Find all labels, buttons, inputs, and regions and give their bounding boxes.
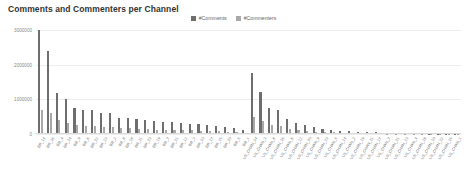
- y-tick-label: 0: [29, 131, 32, 136]
- bar-group[interactable]: [116, 30, 125, 134]
- bar-group[interactable]: [266, 30, 275, 134]
- bar-group[interactable]: [204, 30, 213, 134]
- bar-group[interactable]: [222, 30, 231, 134]
- chart-title: Comments and Commenters per Channel: [8, 4, 179, 14]
- bar[interactable]: [253, 117, 255, 134]
- bar-group[interactable]: [408, 30, 417, 134]
- bar-group[interactable]: [71, 30, 80, 134]
- bar-group[interactable]: [417, 30, 426, 134]
- bar-group[interactable]: [443, 30, 452, 134]
- chart-container: Comments and Commenters per Channel #Com…: [0, 0, 467, 175]
- bar-group[interactable]: [45, 30, 54, 134]
- y-axis: 0100000020000003000000: [0, 30, 34, 134]
- legend-label: #Comments: [199, 15, 227, 21]
- bar-group[interactable]: [63, 30, 72, 134]
- bar-group[interactable]: [133, 30, 142, 134]
- bar-group[interactable]: [399, 30, 408, 134]
- bar-group[interactable]: [151, 30, 160, 134]
- bar-group[interactable]: [213, 30, 222, 134]
- chart-legend: #Comments#Commenters: [0, 15, 467, 21]
- bar-group[interactable]: [426, 30, 435, 134]
- bar-group[interactable]: [240, 30, 249, 134]
- x-tick-label: BR_2: [108, 136, 117, 147]
- y-tick-label: 2000000: [14, 62, 32, 67]
- bar-group[interactable]: [372, 30, 381, 134]
- bars-layer: [36, 30, 461, 134]
- bar-group[interactable]: [381, 30, 390, 134]
- x-tick-label: BR_17: [204, 136, 214, 149]
- x-tick-label: BR_9: [72, 136, 81, 147]
- bar-group[interactable]: [328, 30, 337, 134]
- legend-label: #Commenters: [244, 15, 277, 21]
- legend-swatch-icon: [236, 16, 241, 21]
- bar-group[interactable]: [169, 30, 178, 134]
- x-tick-label: BR_14: [36, 136, 46, 149]
- bar-group[interactable]: [142, 30, 151, 134]
- bar[interactable]: [58, 120, 60, 134]
- bar-group[interactable]: [36, 30, 45, 134]
- bar-group[interactable]: [54, 30, 63, 134]
- bar-group[interactable]: [249, 30, 258, 134]
- bar-group[interactable]: [434, 30, 443, 134]
- x-axis: BR_14BR_16BR_4BR_24BR_9BR_6BR_22BR_13BR_…: [36, 135, 461, 175]
- bar-group[interactable]: [346, 30, 355, 134]
- plot-area: [36, 30, 461, 134]
- x-tick-label: BR_23: [142, 136, 152, 149]
- bar-group[interactable]: [284, 30, 293, 134]
- bar-group[interactable]: [355, 30, 364, 134]
- bar-group[interactable]: [390, 30, 399, 134]
- x-tick-label: BR_5: [232, 136, 241, 147]
- bar[interactable]: [50, 113, 52, 134]
- y-tick-label: 1000000: [14, 97, 32, 102]
- bar-group[interactable]: [80, 30, 89, 134]
- bar-group[interactable]: [275, 30, 284, 134]
- bar-group[interactable]: [187, 30, 196, 134]
- bar-group[interactable]: [98, 30, 107, 134]
- legend-swatch-icon: [191, 16, 196, 21]
- legend-entry-2[interactable]: #Commenters: [236, 15, 277, 21]
- bar-group[interactable]: [319, 30, 328, 134]
- bar-group[interactable]: [452, 30, 461, 134]
- bar-group[interactable]: [178, 30, 187, 134]
- bar-group[interactable]: [257, 30, 266, 134]
- bar-group[interactable]: [125, 30, 134, 134]
- bar-group[interactable]: [107, 30, 116, 134]
- bar-group[interactable]: [231, 30, 240, 134]
- plot-wrapper: 0100000020000003000000 BR_14BR_16BR_4BR_…: [0, 30, 467, 175]
- y-tick-label: 3000000: [14, 28, 32, 33]
- bar-group[interactable]: [310, 30, 319, 134]
- legend-entry-1[interactable]: #Comments: [191, 15, 227, 21]
- bar-group[interactable]: [364, 30, 373, 134]
- bar-group[interactable]: [89, 30, 98, 134]
- bar-group[interactable]: [293, 30, 302, 134]
- x-axis-line: [36, 133, 461, 134]
- bar-group[interactable]: [160, 30, 169, 134]
- bar-group[interactable]: [195, 30, 204, 134]
- bar-group[interactable]: [302, 30, 311, 134]
- bar-group[interactable]: [337, 30, 346, 134]
- bar[interactable]: [41, 110, 43, 134]
